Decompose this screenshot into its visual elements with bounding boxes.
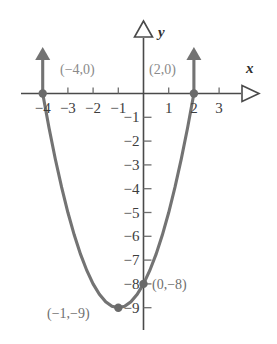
y-axis-arrowhead-icon <box>135 21 153 37</box>
x-tick-label: 3 <box>215 100 223 116</box>
x-tick-label: −2 <box>85 100 101 116</box>
x-tick-label: −4 <box>35 100 51 116</box>
continuation-ray-arrowhead-icon <box>35 47 50 60</box>
y-tick-label: −3 <box>124 157 140 173</box>
y-tick-label: −5 <box>124 205 140 221</box>
marked-point-y-intercept <box>139 280 147 288</box>
x-tick-label: 1 <box>165 100 173 116</box>
point-label-y-intercept: (0,−8) <box>152 277 187 293</box>
parabola-curve <box>43 94 194 308</box>
point-label-vertex: (−1,−9) <box>47 306 90 322</box>
x-axis-label: x <box>245 60 254 76</box>
curve-group <box>43 94 194 308</box>
x-tick-label: 2 <box>190 100 198 116</box>
point-label-root-left: (−4,0) <box>60 62 95 78</box>
y-tick-label: −9 <box>124 300 140 316</box>
y-axis-label: y <box>156 24 165 40</box>
marked-point-root-left <box>39 89 47 97</box>
y-tick-label: −6 <box>124 228 140 244</box>
continuation-ray-arrowhead-icon <box>186 47 201 60</box>
graph-canvas: x y −4−3−2−1123 −1−2−3−4−5−6−7−8−9 (−4,0… <box>0 0 277 344</box>
y-tick-label: −8 <box>124 276 140 292</box>
y-axis-tick-labels-group: −1−2−3−4−5−6−7−8−9 <box>124 109 140 315</box>
marked-point-vertex <box>114 304 122 312</box>
x-tick-label: −3 <box>60 100 76 116</box>
marked-point-root-right <box>190 89 198 97</box>
y-tick-label: −4 <box>124 181 140 197</box>
point-label-root-right: (2,0) <box>149 62 176 78</box>
y-tick-label: −2 <box>124 133 140 149</box>
y-tick-label: −1 <box>124 109 140 125</box>
y-tick-label: −7 <box>124 252 140 268</box>
x-axis-arrowhead-icon <box>242 86 259 102</box>
parabola-graph-figure: x y −4−3−2−1123 −1−2−3−4−5−6−7−8−9 (−4,0… <box>0 0 277 344</box>
